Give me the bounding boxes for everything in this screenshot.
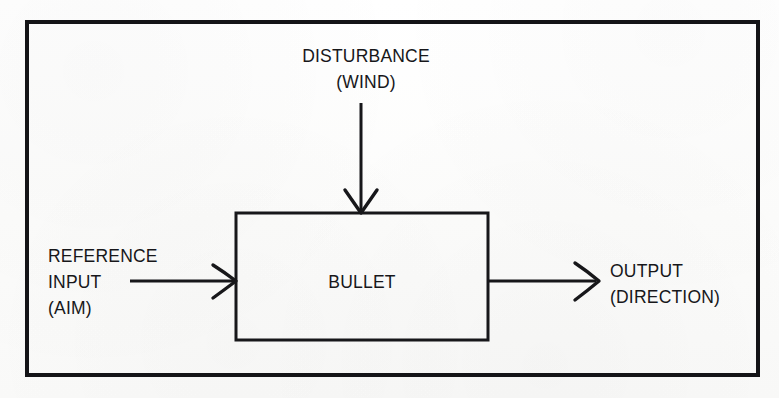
disturbance-label-line2: (WIND) — [336, 72, 396, 92]
diagram-canvas: DISTURBANCE (WIND) REFERENCE INPUT (AIM)… — [0, 0, 779, 398]
disturbance-label-line1: DISTURBANCE — [302, 46, 430, 66]
reference-label-line1: REFERENCE — [48, 246, 158, 266]
plant-block-label: BULLET — [328, 272, 395, 292]
plant-block: BULLET — [236, 213, 488, 340]
block-diagram-svg: DISTURBANCE (WIND) REFERENCE INPUT (AIM)… — [0, 0, 779, 398]
reference-input-arrow — [130, 265, 236, 298]
disturbance-arrow — [345, 103, 377, 213]
output-arrow — [488, 263, 599, 300]
reference-label-line2: INPUT — [48, 272, 102, 292]
output-label-line2: (DIRECTION) — [610, 287, 720, 307]
output-label-line1: OUTPUT — [610, 261, 683, 281]
reference-label-line3: (AIM) — [48, 298, 92, 318]
